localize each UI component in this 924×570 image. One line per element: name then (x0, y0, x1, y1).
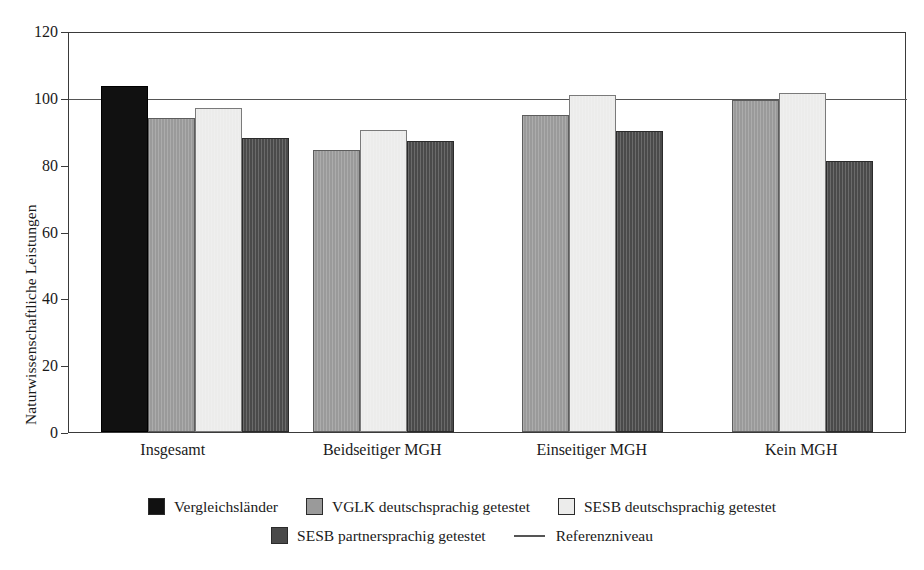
legend-swatch-light (558, 498, 575, 515)
y-tick-label-80: 80 (24, 158, 58, 174)
y-tick-label-0: 0 (24, 425, 58, 441)
y-tick-mark-60 (61, 233, 68, 234)
bar-2-1 (522, 115, 569, 432)
legend-row-2: SESB partnersprachig getestetReferenzniv… (0, 521, 924, 550)
legend-swatch-dark (271, 527, 288, 544)
legend-item-3: SESB partnersprachig getestet (271, 527, 486, 545)
legend-label-4: Referenzniveau (556, 527, 653, 545)
category-label-3: Kein MGH (697, 441, 907, 459)
y-tick-label-100: 100 (24, 91, 58, 107)
category-label-0: Insgesamt (68, 441, 278, 459)
y-tick-mark-120 (61, 32, 68, 33)
legend-swatch-gray (306, 498, 323, 515)
y-tick-label-60: 60 (24, 225, 58, 241)
science-achievement-bar-chart: . , Naturwissenschaftliche Leistungen 02… (0, 0, 924, 570)
y-tick-mark-20 (61, 366, 68, 367)
y-tick-mark-100 (61, 99, 68, 100)
bar-2-2 (569, 95, 616, 433)
category-label-1: Beidseitiger MGH (278, 441, 488, 459)
bar-0-0 (101, 86, 148, 432)
bar-3-1 (732, 100, 779, 432)
legend-label-1: VGLK deutschsprachig getestet (332, 498, 530, 516)
legend: VergleichsländerVGLK deutschsprachig get… (0, 492, 924, 550)
bar-0-1 (148, 118, 195, 432)
y-tick-mark-0 (61, 433, 68, 434)
y-tick-mark-80 (61, 166, 68, 167)
y-tick-label-120: 120 (24, 24, 58, 40)
y-tick-label-40: 40 (24, 291, 58, 307)
legend-item-0: Vergleichsländer (148, 498, 278, 516)
legend-item-1: VGLK deutschsprachig getestet (306, 498, 530, 516)
cropped-title-remnant: . , (240, 0, 680, 7)
bar-2-3 (616, 131, 663, 432)
legend-swatch-black (148, 498, 165, 515)
bar-3-3 (826, 161, 873, 432)
bar-3-2 (779, 93, 826, 432)
plot-area (68, 32, 906, 433)
bar-1-1 (313, 150, 360, 432)
legend-line-reference (514, 535, 545, 537)
legend-label-0: Vergleichsländer (174, 498, 278, 516)
bar-0-3 (242, 138, 289, 432)
legend-row-1: VergleichsländerVGLK deutschsprachig get… (0, 492, 924, 521)
legend-label-3: SESB partnersprachig getestet (297, 527, 486, 545)
legend-item-4: Referenzniveau (514, 527, 653, 545)
bar-1-2 (360, 130, 407, 432)
y-tick-mark-40 (61, 299, 68, 300)
bar-1-3 (407, 141, 454, 432)
category-label-2: Einseitiger MGH (487, 441, 697, 459)
legend-label-2: SESB deutschsprachig getestet (584, 498, 776, 516)
y-tick-label-20: 20 (24, 358, 58, 374)
legend-item-2: SESB deutschsprachig getestet (558, 498, 776, 516)
bar-0-2 (195, 108, 242, 432)
